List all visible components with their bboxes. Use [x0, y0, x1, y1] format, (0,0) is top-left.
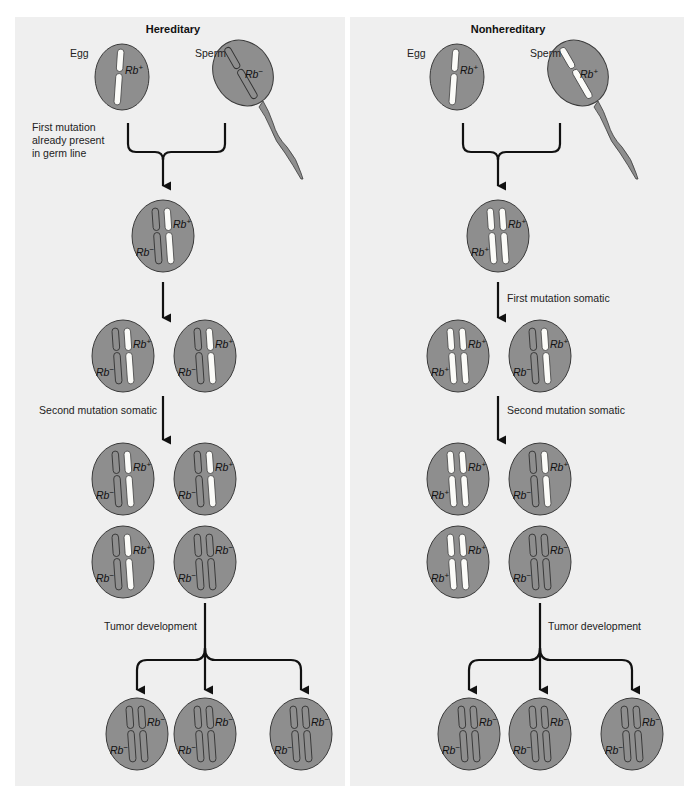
egg-cell: Rb+: [430, 44, 484, 110]
cell-body: [427, 526, 489, 598]
nonhereditary-panel: NonhereditaryRb+EggRb+SpermRb+Rb+First m…: [350, 17, 684, 786]
cell-body: [601, 698, 663, 770]
cell-body: [174, 443, 236, 515]
cell-body: [509, 698, 571, 770]
cell-body: [92, 526, 154, 598]
row3-cell-b: Rb−Rb−: [174, 526, 236, 598]
row3-cell-a: Rb+Rb+: [427, 526, 489, 598]
panel-title: Hereditary: [146, 23, 201, 35]
tumor-cell-3: Rb−Rb−: [601, 698, 663, 770]
row1-cell-a: Rb−Rb+: [92, 320, 154, 392]
tumor-cell-1: Rb−Rb−: [438, 698, 500, 770]
cell-body: [270, 698, 332, 770]
row3-cell-a: Rb−Rb+: [92, 526, 154, 598]
sperm-label: Sperm: [195, 47, 226, 59]
row1-cell-a: Rb+Rb+: [427, 320, 489, 392]
step2-note: Second mutation somatic: [39, 404, 157, 416]
cell-body: [174, 320, 236, 392]
cell-body: [174, 698, 236, 770]
zygote-cell: Rb+Rb+: [467, 200, 529, 272]
cell-body: [509, 443, 571, 515]
cell-body: [92, 320, 154, 392]
tumor-cell-1: Rb−Rb−: [106, 698, 168, 770]
cell-body: [467, 200, 529, 272]
step3-note: Tumor development: [104, 620, 197, 632]
step1-note: First mutation somatic: [507, 292, 610, 304]
fusion-note-line: in germ line: [32, 147, 86, 159]
cell-body: [132, 200, 194, 272]
zygote-cell: Rb−Rb+: [132, 200, 194, 272]
cell-body: [427, 443, 489, 515]
hereditary-panel: HereditaryRb+EggRb−SpermFirst mutational…: [15, 17, 345, 786]
step3-note: Tumor development: [548, 620, 641, 632]
rb-two-hit-diagram: HereditaryRb+EggRb−SpermFirst mutational…: [0, 0, 699, 804]
row3-cell-b: Rb−Rb−: [509, 526, 571, 598]
sperm-label: Sperm: [530, 47, 561, 59]
cell-body: [106, 698, 168, 770]
fusion-note-line: First mutation: [32, 121, 96, 133]
cell-body: [509, 320, 571, 392]
cell-body: [174, 526, 236, 598]
tumor-cell-2: Rb−Rb−: [509, 698, 571, 770]
row1-cell-b: Rb−Rb+: [509, 320, 571, 392]
row2-cell-a: Rb+Rb+: [427, 443, 489, 515]
panel-title: Nonhereditary: [471, 23, 546, 35]
cell-body: [509, 526, 571, 598]
row2-cell-a: Rb−Rb+: [92, 443, 154, 515]
fusion-note-line: already present: [32, 134, 104, 146]
step2-note: Second mutation somatic: [507, 404, 625, 416]
cell-body: [438, 698, 500, 770]
cell-body: [427, 320, 489, 392]
panel-background: [350, 17, 684, 786]
row1-cell-b: Rb−Rb+: [174, 320, 236, 392]
tumor-cell-3: Rb−Rb−: [270, 698, 332, 770]
egg-cell: Rb+: [95, 44, 149, 110]
egg-label: Egg: [70, 47, 89, 59]
row2-cell-b: Rb−Rb+: [509, 443, 571, 515]
egg-label: Egg: [407, 47, 426, 59]
cell-body: [92, 443, 154, 515]
tumor-cell-2: Rb−Rb−: [174, 698, 236, 770]
row2-cell-b: Rb−Rb+: [174, 443, 236, 515]
